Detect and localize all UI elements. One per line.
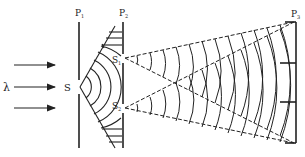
wavefronts-s1: [137, 25, 290, 136]
diffraction-wedge-s: [80, 26, 122, 148]
label-s2-sub: 2: [118, 106, 121, 112]
incident-light-arrows: [14, 65, 55, 108]
label-wavelength: λ: [3, 81, 10, 94]
screen-p3: [280, 22, 296, 143]
label-p2-sub: 2: [125, 13, 128, 19]
label-p1-sub: 1: [81, 13, 84, 19]
label-source: S: [64, 82, 71, 93]
label-p3-sub: 3: [297, 14, 300, 20]
wavefronts-s2: [137, 29, 291, 142]
label-s1-sub: 1: [118, 60, 121, 66]
double-slit-diagram: λ S P 1 P 2 P 3 S 1 S 2: [0, 0, 305, 157]
